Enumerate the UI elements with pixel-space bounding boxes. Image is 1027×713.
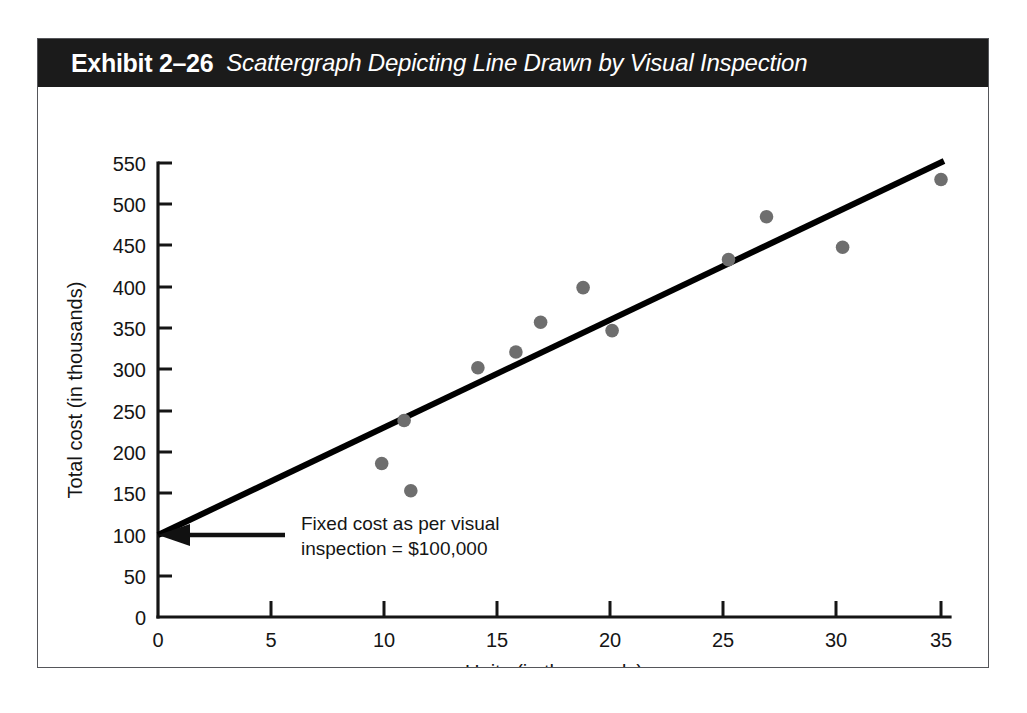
- x-tick-label: 15: [486, 629, 508, 651]
- data-point: [471, 361, 485, 375]
- y-tick-label: 150: [113, 483, 146, 505]
- x-tick-label: 35: [930, 629, 952, 651]
- exhibit-number: Exhibit 2–26: [71, 49, 213, 78]
- data-point: [836, 240, 850, 254]
- y-axis-tick-labels: 550 500 450 400 350 300 250 200 150 100 …: [113, 153, 146, 629]
- data-point: [722, 253, 736, 267]
- fixed-cost-annotation-line2: inspection = $100,000: [301, 538, 487, 559]
- scattergraph-svg: 550 500 450 400 350 300 250 200 150 100 …: [38, 87, 990, 667]
- data-point: [375, 457, 389, 471]
- x-tick-label: 30: [825, 629, 847, 651]
- visual-inspection-line: [158, 161, 944, 535]
- x-axis-title: Units (in thousands): [465, 661, 643, 667]
- data-point: [760, 210, 774, 224]
- scattergraph-plot-area: 550 500 450 400 350 300 250 200 150 100 …: [38, 87, 990, 667]
- y-tick-label: 500: [113, 194, 146, 216]
- y-tick-label: 350: [113, 318, 146, 340]
- scatter-data-points: [375, 173, 948, 498]
- exhibit-title-bar: Exhibit 2–26 Scattergraph Depicting Line…: [38, 39, 988, 87]
- x-tick-label: 20: [599, 629, 621, 651]
- data-point: [509, 345, 523, 359]
- y-tick-label: 550: [113, 153, 146, 175]
- y-axis-title: Total cost (in thousands): [64, 282, 86, 499]
- y-tick-label: 200: [113, 442, 146, 464]
- x-tick-label: 5: [265, 629, 276, 651]
- fixed-cost-annotation-line1: Fixed cost as per visual: [301, 513, 500, 534]
- y-tick-label: 300: [113, 359, 146, 381]
- y-tick-label: 50: [124, 566, 146, 588]
- data-point: [576, 281, 590, 295]
- y-axis-ticks: [158, 163, 172, 576]
- y-tick-label: 100: [113, 525, 146, 547]
- y-tick-label: 250: [113, 401, 146, 423]
- data-point: [534, 316, 548, 330]
- data-point: [934, 173, 948, 187]
- data-point: [397, 414, 411, 428]
- y-tick-label: 0: [135, 607, 146, 629]
- x-axis-tick-labels: 0 5 10 15 20 25 30 35: [152, 629, 952, 651]
- exhibit-caption: Scattergraph Depicting Line Drawn by Vis…: [226, 49, 807, 77]
- x-tick-label: 10: [373, 629, 395, 651]
- x-tick-label: 25: [712, 629, 734, 651]
- x-axis-ticks: [271, 601, 941, 617]
- y-tick-label: 400: [113, 277, 146, 299]
- x-tick-label: 0: [152, 629, 163, 651]
- data-point: [404, 484, 418, 498]
- axis-lines: [158, 163, 950, 617]
- exhibit-panel: Exhibit 2–26 Scattergraph Depicting Line…: [37, 38, 989, 668]
- data-point: [605, 324, 619, 338]
- y-tick-label: 450: [113, 235, 146, 257]
